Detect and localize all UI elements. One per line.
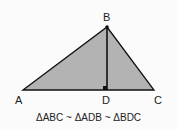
label-d: D — [102, 94, 110, 106]
triangle-diagram: B A D C ΔABC ~ ΔADB ~ ΔBDC — [0, 0, 177, 130]
label-b: B — [103, 11, 110, 23]
label-a: A — [15, 94, 23, 106]
right-angle-marker-icon — [103, 86, 107, 90]
triangle-abc — [23, 27, 154, 90]
similarity-caption: ΔABC ~ ΔADB ~ ΔBDC — [36, 112, 141, 123]
diagram-canvas: B A D C ΔABC ~ ΔADB ~ ΔBDC — [0, 0, 177, 130]
vertex-b-dot-icon — [105, 25, 109, 29]
label-c: C — [154, 94, 162, 106]
